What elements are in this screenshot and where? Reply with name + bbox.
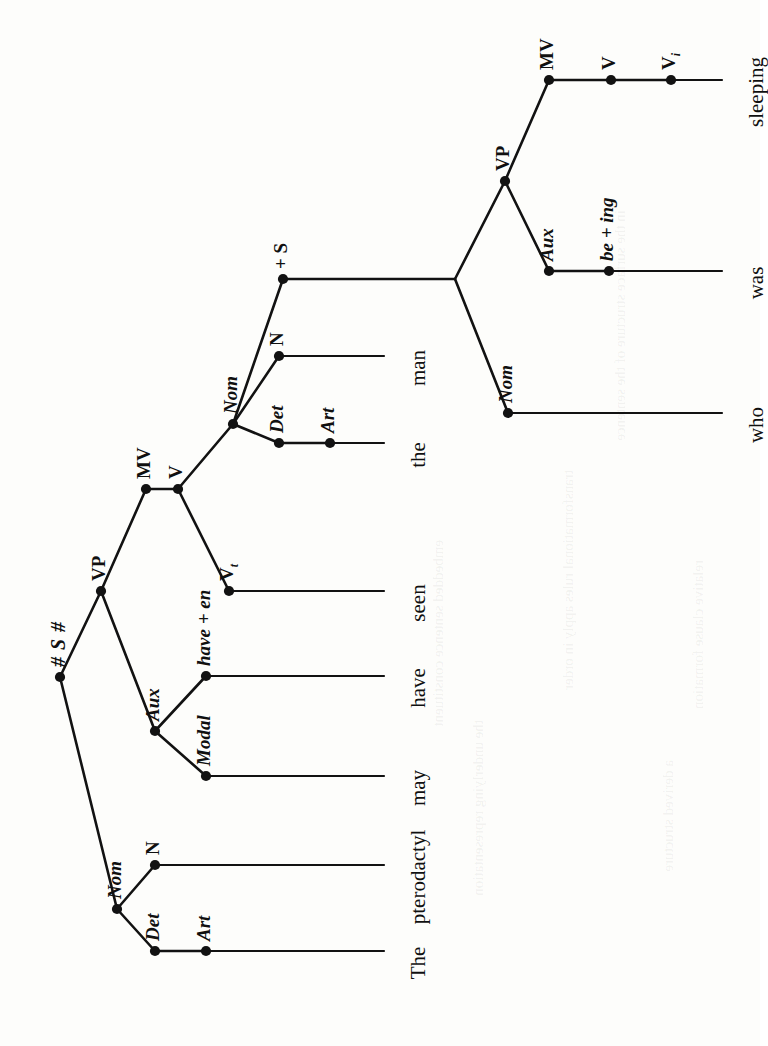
tree-edge-nom2-to-n2 — [233, 356, 279, 424]
tree-node-dot-v2 — [606, 75, 616, 85]
tree-edge-aux1-to-modal — [155, 731, 206, 776]
tree-node-dot-being — [604, 266, 614, 276]
tree-edge-v1-to-vt1 — [178, 489, 229, 591]
terminal-lines — [155, 80, 722, 951]
tree-node-dot-vp2 — [500, 176, 510, 186]
tree-node-dot-modal — [201, 771, 211, 781]
tree-node-dot-vp1 — [96, 586, 106, 596]
tree-edge-nom1-to-n1 — [117, 865, 155, 909]
tree-edge-nom1-to-det1 — [117, 909, 155, 951]
tree-edge-vp1-to-aux1 — [101, 591, 155, 731]
tree-edge-vp2-to-aux2 — [505, 181, 549, 271]
tree-node-dot-art2 — [325, 438, 335, 448]
tree-node-dot-root — [55, 672, 65, 682]
tree-edge-junction-to-vp2 — [455, 181, 505, 279]
tree-edge-root-to-vp1 — [60, 591, 101, 677]
tree-edge-nom2-to-det2 — [233, 424, 279, 443]
tree-node-dot-mv2 — [544, 75, 554, 85]
tree-node-dot-nom3 — [503, 408, 513, 418]
tree-node-dot-haveen — [201, 671, 211, 681]
tree-node-dot-art1 — [201, 946, 211, 956]
tree-node-dot-det2 — [274, 438, 284, 448]
tree-node-dot-plusS — [278, 274, 288, 284]
tree-node-dot-nom2 — [228, 419, 238, 429]
tree-edge-vp2-to-mv2 — [505, 80, 549, 181]
tree-edge-junction-to-nom3 — [455, 279, 508, 413]
tree-node-dot-nom1 — [112, 904, 122, 914]
tree-node-dot-n1 — [150, 860, 160, 870]
tree-edge-nom2-to-plusS — [233, 279, 283, 424]
tree-edge-vp1-to-mv1 — [101, 489, 146, 591]
tree-edge-root-to-nom1 — [60, 677, 117, 909]
tree-node-dot-det1 — [150, 946, 160, 956]
tree-node-dot-v1 — [173, 484, 183, 494]
tree-edges — [60, 80, 671, 951]
tree-node-dot-vi2 — [666, 75, 676, 85]
tree-node-dot-mv1 — [141, 484, 151, 494]
tree-node-dot-aux2 — [544, 266, 554, 276]
tree-edge-v1-to-nom2 — [178, 424, 233, 489]
tree-node-dot-n2 — [274, 351, 284, 361]
tree-node-dot-vt1 — [224, 586, 234, 596]
tree-node-dot-aux1 — [150, 726, 160, 736]
tree-edge-aux1-to-haveen — [155, 676, 206, 731]
tree-nodes — [55, 75, 676, 956]
